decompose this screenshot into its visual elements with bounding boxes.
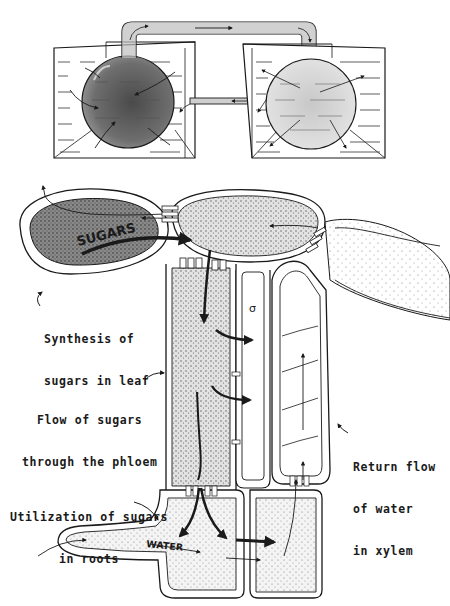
osmometer-model (54, 22, 385, 158)
xylem-vessel (272, 261, 330, 484)
callout-phloem-line1: Flow of sugars (22, 413, 157, 427)
collecting-cell (172, 190, 325, 262)
callout-roots: Utilization of sugars in roots (10, 482, 168, 580)
callout-arrow-xylem (338, 424, 348, 433)
companion-cell: σ (232, 270, 270, 488)
phloem-transport-diagram: SUGARS (0, 0, 450, 606)
callout-xylem-line3: in xylem (353, 544, 436, 558)
phloem-sieve-tube (166, 250, 236, 496)
callout-arrow-leaf (37, 292, 42, 306)
plasmodesmata-leaf (162, 206, 178, 222)
callout-phloem: Flow of sugars through the phloem (22, 385, 157, 483)
nucleus-symbol: σ (249, 302, 256, 315)
callout-xylem-line1: Return flow (353, 460, 436, 474)
callout-xylem: Return flow of water in xylem (353, 432, 436, 572)
callout-xylem-line2: of water (353, 502, 436, 516)
right-lobe-cell (325, 219, 450, 320)
callout-phloem-line2: through the phloem (22, 455, 157, 469)
callout-roots-line1: Utilization of sugars (10, 510, 168, 524)
callout-leaf-line1: Synthesis of (44, 332, 149, 346)
callout-roots-line2: in roots (10, 552, 168, 566)
